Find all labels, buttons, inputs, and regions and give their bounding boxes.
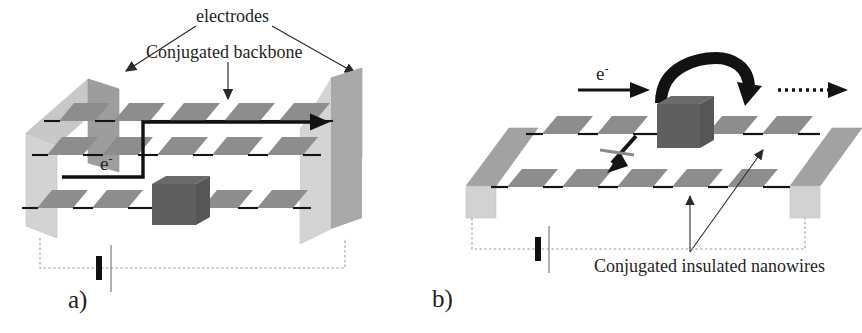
- electron-charge-b: -: [604, 62, 608, 76]
- nanowire-row-back-b: [526, 96, 820, 148]
- turnaround-curved-arrow-b: [661, 58, 762, 106]
- circuit-b: [472, 218, 805, 249]
- electron-path-arrowhead-a: [310, 114, 330, 131]
- nanowire-row-front-a: [22, 176, 311, 225]
- conjugated-backbone-label: Conjugated backbone: [146, 42, 302, 63]
- right-electrode-b: [790, 128, 862, 218]
- figure-canvas: electrodes Conjugated backbone e- a) e- …: [0, 0, 862, 333]
- diagram-svg: [0, 0, 862, 333]
- molecule-block-a: [152, 176, 210, 225]
- circuit-a: [40, 238, 345, 268]
- electron-charge-a: -: [108, 152, 112, 166]
- panel-b-letter: b): [432, 285, 453, 313]
- incoming-electron-arrow-b: [578, 82, 650, 98]
- panel-a-graphics: [22, 26, 362, 292]
- molecule-block-b: [657, 96, 714, 148]
- battery-a: [96, 245, 111, 292]
- electrodes-label: electrodes: [196, 6, 269, 27]
- nanowire-row-back-a: [44, 103, 333, 121]
- panel-a-letter: a): [68, 286, 87, 314]
- electron-label-a: e-: [100, 152, 112, 175]
- battery-b: [535, 226, 549, 273]
- right-electrode-a: [300, 68, 362, 244]
- nanowire-row-front-b: [491, 169, 790, 187]
- panel-b-graphics: [464, 58, 862, 273]
- blocked-hop-arrow-b: [600, 136, 636, 173]
- electron-label-b: e-: [596, 62, 608, 85]
- outgoing-dotted-arrow-b: [778, 82, 848, 98]
- left-electrode-b: [464, 126, 538, 218]
- conjugated-insulated-nanowires-label: Conjugated insulated nanowires: [594, 256, 825, 277]
- nanowire-pointer-arrows-b: [690, 150, 763, 252]
- nanowire-row-middle-a: [32, 137, 321, 155]
